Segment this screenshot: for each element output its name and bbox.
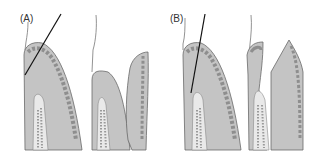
panel-a: (A) xyxy=(0,0,161,161)
tooth-sliver-icon xyxy=(126,52,148,150)
panel-b: (B) xyxy=(161,0,322,161)
panel-a-illustration xyxy=(0,0,161,161)
panel-b-illustration xyxy=(161,0,322,161)
